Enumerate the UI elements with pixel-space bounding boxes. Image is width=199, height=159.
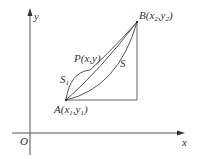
origin-label: O <box>20 136 28 147</box>
diagram-canvas: y x O B(x2,y2) A(x1,y1) P(x,y) S1 S <box>0 0 199 159</box>
point-a-label: A(x1,y1) <box>54 104 88 117</box>
x-axis-label: x <box>182 137 187 148</box>
diagram-graphics <box>0 0 199 159</box>
point-a-open: (x <box>61 103 70 115</box>
region-s1-sub: 1 <box>66 79 70 87</box>
point-b-close: ) <box>169 9 173 21</box>
point-a-close: ) <box>84 103 88 115</box>
point-b-name: B <box>139 9 146 21</box>
point-a-name: A <box>54 103 61 115</box>
y-axis-arrow-icon <box>28 8 33 16</box>
region-s-label: S <box>120 58 126 69</box>
point-b-label: B(x2,y2) <box>139 10 173 23</box>
point-a-dot <box>65 99 67 101</box>
x-axis-arrow-icon <box>177 131 185 136</box>
point-b-dot <box>136 21 138 23</box>
y-axis-label: y <box>34 11 39 22</box>
region-s1-label: S1 <box>60 74 69 87</box>
point-p-label: P(x,y) <box>74 53 101 64</box>
point-b-open: (x <box>146 9 155 21</box>
